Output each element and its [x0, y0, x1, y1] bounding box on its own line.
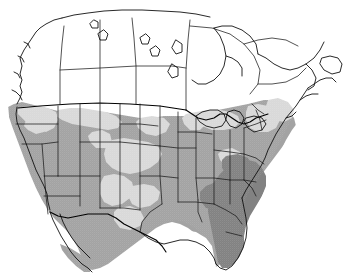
- map-container: [0, 0, 358, 278]
- north-america-map: [0, 0, 358, 278]
